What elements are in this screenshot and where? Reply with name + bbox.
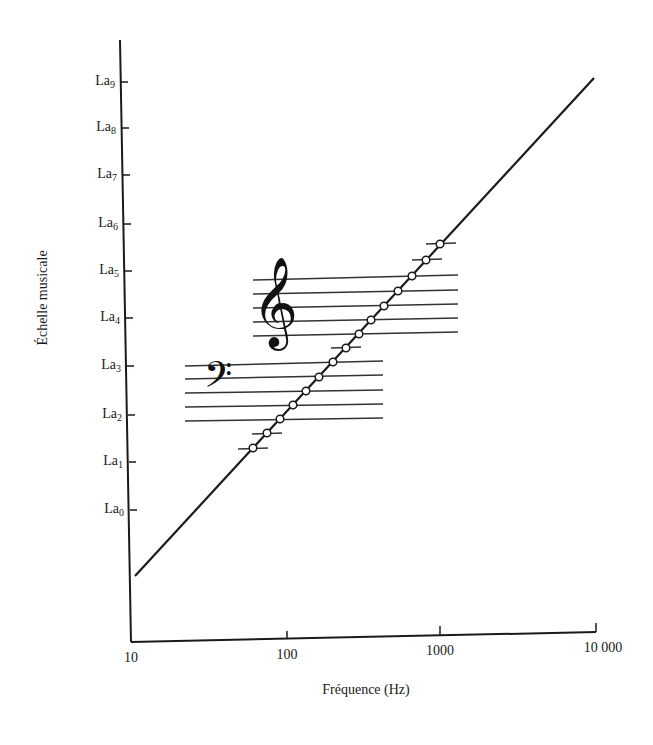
y-tick-label: La9: [65, 73, 115, 90]
y-tick-label: La1: [73, 453, 123, 470]
y-tick-label: La7: [67, 166, 117, 183]
x-tick-label: 10: [124, 650, 138, 666]
data-point: [342, 344, 350, 352]
data-point: [263, 429, 271, 437]
y-ticks: [121, 82, 137, 510]
data-point: [408, 272, 416, 280]
chart: 𝄞 𝄢 La9 La8 La7 La6 La5 La4 La3 La2 La1 …: [0, 0, 653, 745]
data-point: [380, 302, 388, 310]
x-tick-label: 10 000: [584, 640, 623, 656]
bass-clef-icon: 𝄢: [204, 357, 232, 401]
trend-line: [135, 78, 594, 576]
y-axis-title: Échelle musicale: [35, 250, 51, 345]
y-tick-label: La6: [68, 215, 118, 232]
x-axis-title: Fréquence (Hz): [322, 682, 409, 698]
treble-clef-icon: 𝄞: [252, 262, 298, 340]
y-tick-label: La4: [70, 309, 120, 326]
data-point: [355, 330, 363, 338]
x-tick-label: 100: [277, 647, 298, 663]
y-tick-label: La5: [69, 262, 119, 279]
data-point: [436, 240, 444, 248]
x-axis: [131, 632, 596, 642]
x-tick-label: 1000: [426, 643, 454, 659]
y-tick-label: La8: [66, 119, 116, 136]
y-tick-label: La3: [71, 357, 121, 374]
y-axis: [120, 40, 131, 642]
data-point: [315, 373, 323, 381]
y-tick-label: La2: [72, 406, 122, 423]
y-tick-label: La0: [74, 501, 124, 518]
data-point: [289, 401, 297, 409]
data-point: [394, 287, 402, 295]
data-point: [329, 358, 337, 366]
data-point: [367, 316, 375, 324]
data-point: [302, 387, 310, 395]
data-point: [249, 444, 257, 452]
data-point: [422, 256, 430, 264]
data-point: [276, 415, 284, 423]
